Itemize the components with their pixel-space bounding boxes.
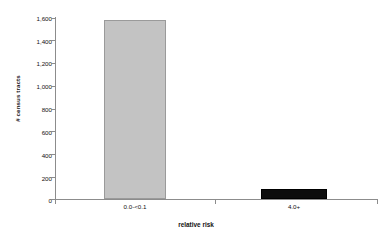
x-tick-label-high-risk: 4.0+	[234, 203, 354, 210]
y-tick-label: 400	[18, 152, 52, 159]
y-tick-label: 1,600	[18, 15, 52, 22]
y-tick-label: 200	[18, 175, 52, 182]
y-tick-label: 1,000	[18, 83, 52, 90]
y-tick-label: 0	[18, 197, 52, 204]
bar-low-risk	[104, 20, 166, 199]
y-tick-label: 600	[18, 129, 52, 136]
y-tick-label: 800	[18, 106, 52, 113]
y-tick-label: 1,200	[18, 60, 52, 67]
bar-chart: # census tracts 1,600 1,400 1,200 1,000 …	[0, 0, 392, 240]
y-tick-label: 1,400	[18, 38, 52, 45]
x-axis-line	[55, 199, 378, 200]
x-axis-title: relative risk	[0, 221, 392, 228]
y-axis-tick-labels: 1,600 1,400 1,200 1,000 800 600 400 200 …	[14, 0, 52, 240]
x-axis-tick	[55, 200, 56, 204]
bar-high-risk	[261, 189, 327, 199]
x-axis-tick	[377, 200, 378, 204]
y-axis-line	[55, 17, 56, 200]
x-axis-tick	[215, 200, 216, 204]
x-tick-label-low-risk: 0.0-<0.1	[75, 203, 195, 210]
